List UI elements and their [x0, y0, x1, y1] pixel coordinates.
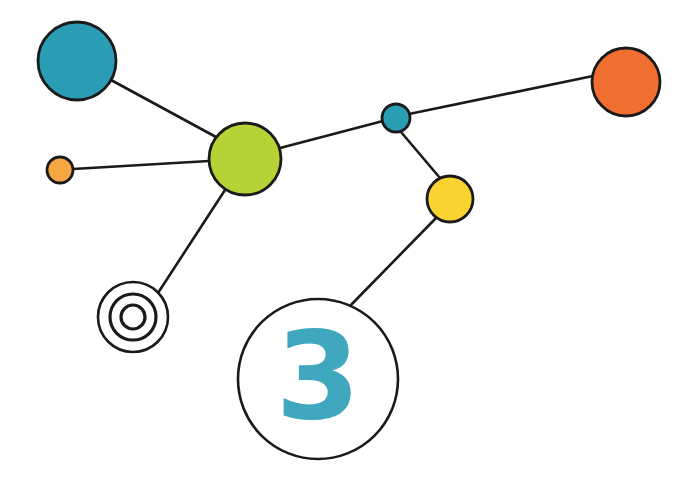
green-large-node[interactable]: [209, 123, 281, 195]
numbered-node[interactable]: 3: [238, 299, 398, 459]
bullseye-target-node[interactable]: [98, 282, 168, 352]
network-diagram: 3: [0, 0, 692, 486]
diagram-canvas: 3: [0, 0, 692, 486]
edge-green-large-to-teal-small: [280, 121, 383, 148]
nodes-group: 3: [38, 22, 660, 459]
numbered-node-label: 3: [276, 305, 361, 447]
teal-large-node[interactable]: [38, 22, 116, 100]
orange-large-node[interactable]: [592, 48, 660, 116]
edge-teal-small-to-yellow-medium: [401, 132, 440, 178]
edge-green-large-to-bullseye: [158, 190, 225, 293]
edge-teal-small-to-orange-large: [409, 76, 593, 114]
edges-group: [73, 76, 593, 308]
edge-orange-small-to-green-large: [73, 161, 209, 169]
teal-small-node[interactable]: [382, 104, 410, 132]
orange-small-node[interactable]: [47, 157, 73, 183]
edge-yellow-medium-to-numbered: [348, 217, 437, 308]
edge-teal-large-to-green-large: [111, 80, 216, 137]
yellow-medium-node[interactable]: [427, 176, 473, 222]
